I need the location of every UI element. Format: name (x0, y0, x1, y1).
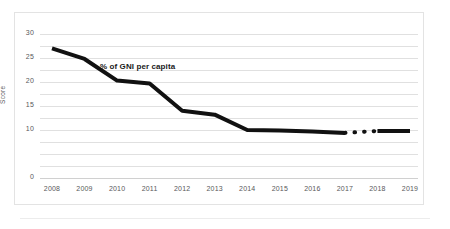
x-tick-label: 2017 (328, 185, 362, 192)
gridlines (40, 34, 418, 178)
x-tick-label: 2011 (133, 185, 167, 192)
chart-plot-svg (0, 0, 450, 229)
x-tick-label: 2016 (295, 185, 329, 192)
y-tick-label: 0 (12, 173, 34, 180)
x-tick-label: 2014 (230, 185, 264, 192)
y-tick-label: 30 (12, 29, 34, 36)
y-tick-label: 15 (12, 101, 34, 108)
data-line-projected (345, 131, 378, 133)
x-tick-label: 2018 (360, 185, 394, 192)
data-line-solid (52, 48, 345, 132)
y-tick-label: 20 (12, 77, 34, 84)
x-tick-label: 2013 (198, 185, 232, 192)
chart-canvas: Score 30252015100 2008200920102011201220… (0, 0, 450, 229)
x-tick-label: 2015 (263, 185, 297, 192)
x-tick-label: 2009 (68, 185, 102, 192)
x-tick-label: 2008 (35, 185, 69, 192)
y-tick-label: 25 (12, 53, 34, 60)
x-tick-label: 2012 (165, 185, 199, 192)
x-tick-label: 2019 (393, 185, 427, 192)
y-tick-label: 10 (12, 125, 34, 132)
series-annotation-label: % of GNI per capita (100, 62, 175, 71)
x-tick-label: 2010 (100, 185, 134, 192)
